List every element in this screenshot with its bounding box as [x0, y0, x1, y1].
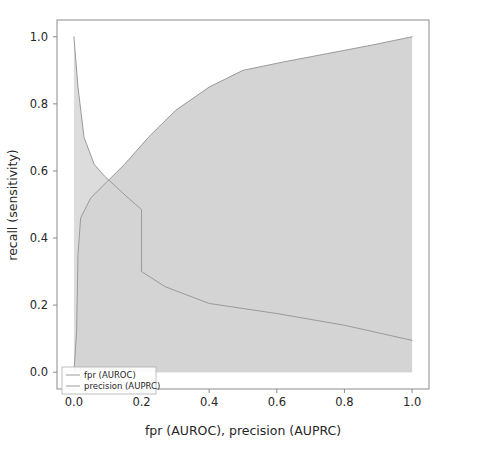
x-tick-label: 0.4: [200, 395, 218, 409]
chart-legend[interactable]: fpr (AUROC) precision (AUPRC): [62, 367, 160, 394]
legend-label-fpr-auroc: fpr (AUROC): [84, 370, 136, 380]
y-tick-label: 0.2: [30, 298, 48, 312]
y-axis-title: recall (sensitivity): [5, 149, 20, 260]
x-tick-label: 1.0: [403, 395, 421, 409]
x-tick-label: 0.2: [132, 395, 150, 409]
x-tick-label: 0.8: [335, 395, 353, 409]
y-tick-label: 0.0: [30, 365, 48, 379]
roc-prc-plot: 0.00.20.40.60.81.0 0.00.20.40.60.81.0 fp…: [0, 0, 480, 457]
x-tick-label: 0.0: [65, 395, 83, 409]
y-tick-label: 0.8: [30, 97, 48, 111]
y-axis-ticks: 0.00.20.40.60.81.0: [30, 30, 57, 379]
figure-canvas: 0.00.20.40.60.81.0 0.00.20.40.60.81.0 fp…: [0, 0, 480, 457]
legend-label-precision-auprc: precision (AUPRC): [84, 381, 160, 391]
x-axis-title: fpr (AUROC), precision (AUPRC): [145, 423, 341, 438]
y-tick-label: 0.6: [30, 164, 48, 178]
y-tick-label: 0.4: [30, 231, 48, 245]
x-tick-label: 0.6: [268, 395, 286, 409]
y-tick-label: 1.0: [30, 30, 48, 44]
